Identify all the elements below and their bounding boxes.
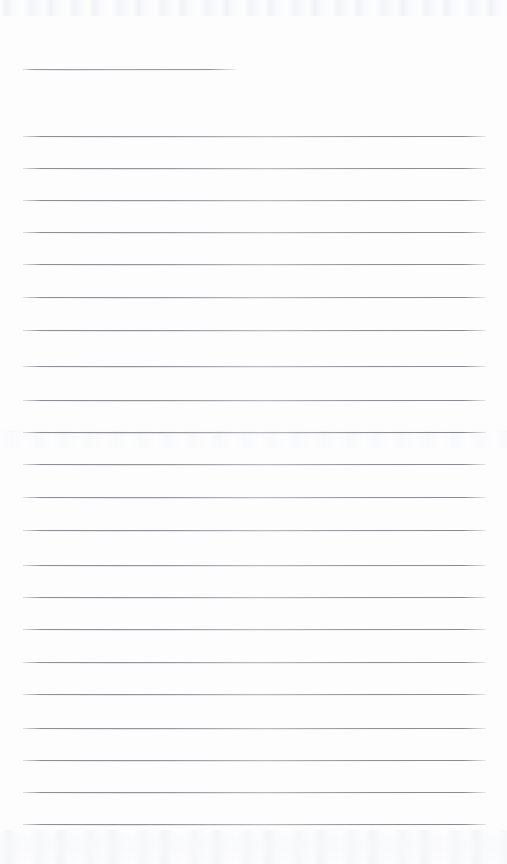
writing-area[interactable] xyxy=(23,80,486,840)
header-rule xyxy=(23,69,236,70)
paper-texture-top xyxy=(0,0,507,16)
notepad-page xyxy=(0,0,507,864)
